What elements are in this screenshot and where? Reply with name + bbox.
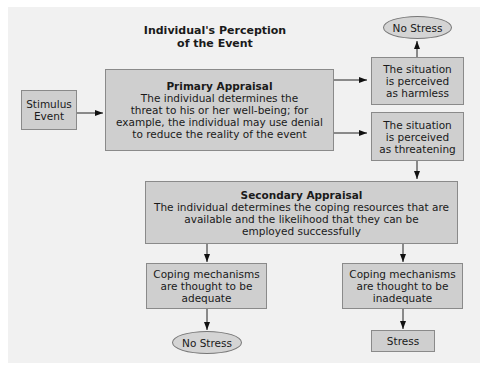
coping-adequate-box: Coping mechanisms are thought to be adeq… bbox=[146, 263, 267, 309]
harmless-line: The situation bbox=[383, 63, 452, 75]
inadequate-line: inadequate bbox=[373, 292, 432, 304]
primary-appraisal-box: Primary Appraisal The individual determi… bbox=[105, 69, 334, 151]
adequate-line: Coping mechanisms bbox=[153, 268, 259, 280]
coping-inadequate-box: Coping mechanisms are thought to be inad… bbox=[342, 263, 463, 309]
primary-line: to reduce the reality of the event bbox=[132, 128, 306, 140]
primary-line: example, the individual may use denial bbox=[116, 116, 323, 128]
no-stress-top-label: No Stress bbox=[393, 22, 443, 34]
secondary-line: The individual determines the coping res… bbox=[154, 201, 449, 213]
secondary-appraisal-box: Secondary Appraisal The individual deter… bbox=[145, 181, 458, 244]
stimulus-line-2: Event bbox=[34, 110, 64, 122]
adequate-line: are thought to be bbox=[161, 280, 253, 292]
stress-label: Stress bbox=[387, 335, 419, 347]
no-stress-bottom-label: No Stress bbox=[182, 337, 232, 349]
no-stress-bottom-oval: No Stress bbox=[172, 331, 242, 354]
stress-box: Stress bbox=[371, 330, 435, 352]
stimulus-line-1: Stimulus bbox=[26, 98, 72, 110]
stimulus-event-box: Stimulus Event bbox=[21, 90, 77, 130]
primary-appraisal-title: Primary Appraisal bbox=[166, 80, 272, 92]
secondary-line: employed successfully bbox=[242, 225, 361, 237]
threatening-line: as threatening bbox=[379, 143, 455, 155]
threatening-line: is perceived bbox=[386, 131, 449, 143]
inadequate-line: are thought to be bbox=[357, 280, 449, 292]
no-stress-top-oval: No Stress bbox=[383, 16, 452, 39]
harmless-line: as harmless bbox=[386, 87, 449, 99]
threatening-box: The situation is perceived as threatenin… bbox=[371, 112, 464, 161]
secondary-line: available and the likelihood that they c… bbox=[184, 213, 419, 225]
adequate-line: adequate bbox=[182, 292, 232, 304]
inadequate-line: Coping mechanisms bbox=[349, 268, 455, 280]
primary-line: The individual determines the bbox=[141, 92, 298, 104]
threatening-line: The situation bbox=[383, 119, 452, 131]
harmless-line: is perceived bbox=[386, 75, 449, 87]
harmless-box: The situation is perceived as harmless bbox=[371, 57, 464, 105]
secondary-appraisal-title: Secondary Appraisal bbox=[241, 189, 363, 201]
primary-line: threat to his or her well-being; for bbox=[131, 104, 309, 116]
